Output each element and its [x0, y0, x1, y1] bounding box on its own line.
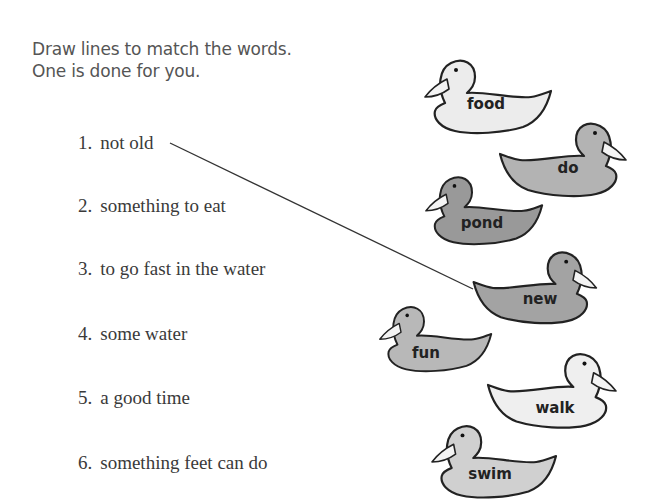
match-line — [170, 143, 473, 289]
svg-text:pond: pond — [461, 214, 503, 232]
svg-text:fun: fun — [412, 344, 440, 362]
duck-food[interactable]: food — [425, 61, 551, 133]
duck-do[interactable]: do — [500, 124, 626, 196]
ducks-canvas: food do pond new fun walk swim — [0, 0, 656, 501]
duck-new[interactable]: new — [474, 253, 597, 324]
duck-fun[interactable]: fun — [380, 307, 491, 371]
duck-swim[interactable]: swim — [432, 426, 556, 497]
duck-walk[interactable]: walk — [488, 354, 616, 428]
svg-text:do: do — [557, 159, 578, 177]
svg-text:food: food — [467, 95, 505, 113]
svg-text:swim: swim — [468, 465, 512, 483]
svg-text:walk: walk — [535, 399, 575, 417]
svg-text:new: new — [523, 290, 558, 308]
